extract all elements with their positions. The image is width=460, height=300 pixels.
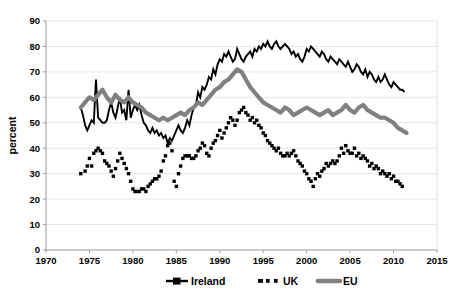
y-tick-label: 40 [29, 143, 40, 154]
data-point [366, 159, 369, 162]
data-point [109, 169, 112, 172]
data-point [370, 162, 373, 165]
data-point [305, 172, 308, 175]
chart-legend: IrelandUKEU [166, 275, 358, 287]
data-point [242, 106, 245, 109]
data-point [255, 119, 258, 122]
data-point [170, 149, 173, 152]
data-point [311, 185, 314, 188]
data-point [129, 180, 132, 183]
data-point [259, 126, 262, 129]
data-point [235, 119, 238, 122]
chart-container: 0102030405060708090 19701975198019851990… [0, 0, 460, 300]
data-point [392, 175, 395, 178]
data-point [120, 157, 123, 160]
axes [46, 21, 437, 250]
legend-label: UK [283, 275, 299, 287]
legend-marker-swatch [173, 278, 181, 285]
y-axis-tick-labels: 0102030405060708090 [29, 15, 40, 255]
data-point [233, 124, 236, 127]
y-tick-label: 10 [29, 219, 40, 230]
data-point [194, 154, 197, 157]
series-line [81, 69, 407, 133]
data-point [177, 172, 180, 175]
data-point [101, 152, 104, 155]
data-point [322, 167, 325, 170]
y-tick-label: 30 [29, 168, 40, 179]
data-point [351, 152, 354, 155]
y-tick-label: 0 [35, 244, 40, 255]
data-point [401, 185, 404, 188]
data-point [340, 147, 343, 150]
data-point [203, 144, 206, 147]
data-point [231, 119, 234, 122]
x-tick-label: 2015 [426, 255, 448, 266]
y-tick-label: 70 [29, 66, 40, 77]
x-tick-label: 1970 [35, 255, 56, 266]
data-point [127, 172, 130, 175]
data-point [79, 172, 82, 175]
data-point [335, 159, 338, 162]
x-tick-label: 1995 [253, 255, 275, 266]
data-point [251, 116, 254, 119]
legend-dot-swatch [266, 279, 270, 283]
data-point [125, 167, 128, 170]
legend-label: Ireland [191, 275, 225, 287]
x-tick-label: 1980 [122, 255, 143, 266]
data-point [220, 136, 223, 139]
data-point [377, 167, 380, 170]
data-point [118, 152, 121, 155]
data-point [222, 131, 225, 134]
y-tick-label: 20 [29, 194, 40, 205]
data-point [277, 147, 280, 150]
x-tick-label: 1975 [79, 255, 101, 266]
data-point [88, 157, 91, 160]
data-point [227, 121, 230, 124]
data-point [86, 164, 89, 167]
data-point [123, 162, 126, 165]
y-axis-title-text: percent [6, 116, 18, 154]
y-tick-label: 80 [29, 41, 40, 52]
legend-dot-swatch [274, 279, 278, 283]
data-point [209, 147, 212, 150]
data-point [388, 172, 391, 175]
data-point [207, 154, 210, 157]
data-point [309, 180, 312, 183]
data-point [114, 167, 117, 170]
y-axis-title: percent [6, 116, 18, 154]
legend-dot-swatch [258, 279, 263, 283]
series-eu [81, 69, 407, 133]
data-point [179, 164, 182, 167]
x-tick-label: 2000 [296, 255, 317, 266]
series-line [81, 41, 405, 143]
data-point [225, 126, 228, 129]
x-tick-label: 1985 [166, 255, 188, 266]
legend-item-ireland[interactable]: Ireland [166, 275, 225, 287]
data-point [344, 144, 347, 147]
data-point [144, 190, 147, 193]
data-point [338, 154, 341, 157]
data-point [164, 154, 167, 157]
data-point [214, 139, 217, 142]
data-point [294, 154, 297, 157]
legend-item-uk[interactable]: UK [258, 275, 299, 287]
data-point [168, 141, 171, 144]
data-point [314, 177, 317, 180]
data-point [107, 164, 110, 167]
data-point [83, 169, 86, 172]
data-point [301, 164, 304, 167]
data-point [318, 175, 321, 178]
data-point [199, 147, 202, 150]
legend-item-eu[interactable]: EU [318, 275, 358, 287]
data-point [264, 134, 267, 137]
y-tick-label: 60 [29, 92, 40, 103]
series-ireland [81, 41, 405, 143]
data-point [157, 175, 160, 178]
data-point [172, 180, 175, 183]
data-point [175, 185, 178, 188]
data-point [357, 152, 360, 155]
data-point [116, 159, 119, 162]
y-tick-label: 50 [29, 117, 40, 128]
chart-svg: 0102030405060708090 19701975198019851990… [0, 0, 460, 300]
legend-label: EU [343, 275, 358, 287]
